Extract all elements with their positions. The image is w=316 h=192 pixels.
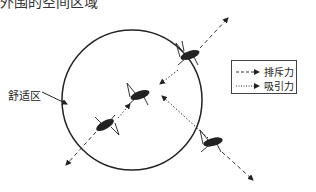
dashed-arrow-icon [236,68,260,76]
comfort-zone-label: 舒适区 [8,87,41,103]
repulsion-arrow-lower-right [222,152,253,180]
locust-icon [176,41,201,65]
diagram-canvas [0,0,316,192]
attraction-arrow-1 [160,70,178,84]
dotted-arrow-icon [236,82,260,90]
repulsion-arrow-lower-left [66,132,96,165]
attraction-arrow-3 [118,104,130,118]
comfort-zone-circle [62,30,202,170]
legend-item-repulsion: 排斥力 [236,64,294,79]
legend: 排斥力 吸引力 [231,60,297,94]
legend-item-attraction: 吸引力 [236,78,294,93]
locust-icon [200,130,224,152]
zone-label-pointer [42,92,67,104]
locust-icon [127,83,151,105]
repulsion-arrow-upper [200,18,228,48]
locust-icon [94,115,119,135]
